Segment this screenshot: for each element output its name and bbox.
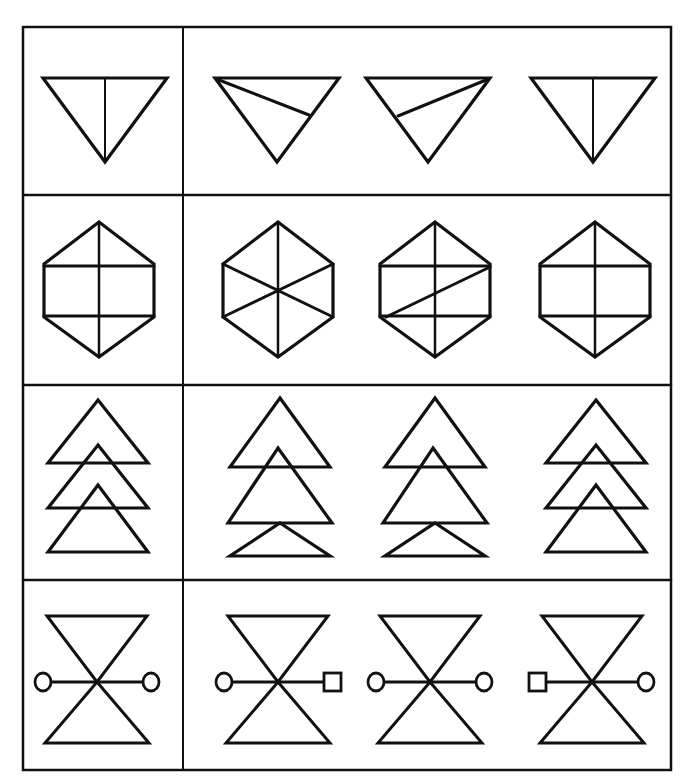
option-figure-b[interactable] <box>380 222 490 357</box>
option-figure-b[interactable] <box>368 616 492 743</box>
option-figure-c[interactable] <box>531 78 655 162</box>
option-figure-c[interactable] <box>540 222 650 357</box>
option-figure-c[interactable] <box>546 400 646 552</box>
option-figure-a[interactable] <box>215 78 339 162</box>
option-figure-c[interactable] <box>529 616 654 743</box>
option-figure-a[interactable] <box>223 222 333 357</box>
target-figure <box>48 400 148 552</box>
figure-matching-puzzle <box>0 0 698 780</box>
option-figure-b[interactable] <box>366 78 490 162</box>
puzzle-row-hourglass-with-bar <box>35 616 654 743</box>
target-figure <box>44 222 154 357</box>
option-figure-a[interactable] <box>216 616 341 743</box>
puzzle-board <box>0 0 698 780</box>
option-figure-b[interactable] <box>383 398 487 556</box>
target-figure <box>35 616 159 743</box>
puzzle-row-inverted-triangle <box>43 78 655 162</box>
option-figure-a[interactable] <box>228 398 332 556</box>
target-figure <box>43 78 167 162</box>
puzzle-row-stacked-triangles <box>48 398 646 556</box>
puzzle-row-hexagon <box>44 222 650 357</box>
